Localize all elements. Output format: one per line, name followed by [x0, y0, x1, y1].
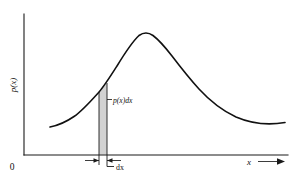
x-axis-arrow-icon	[277, 158, 285, 164]
strip-area-label: p(x)dx	[112, 96, 133, 105]
y-axis-label: p(x)	[8, 78, 18, 94]
dx-label: dx	[116, 163, 124, 172]
origin-label: 0	[10, 162, 15, 172]
probability-strip-hatching	[98, 82, 108, 156]
probability-density-figure: 0 p(x) x p(x)dx dx	[0, 0, 293, 180]
density-curve	[50, 33, 285, 127]
x-axis-label: x	[246, 157, 251, 167]
figure-canvas: 0 p(x) x p(x)dx dx	[0, 0, 293, 180]
dx-left-arrow-icon	[94, 158, 100, 163]
dx-right-arrow-icon	[107, 158, 113, 163]
x-axis-arrow-group	[258, 158, 285, 164]
